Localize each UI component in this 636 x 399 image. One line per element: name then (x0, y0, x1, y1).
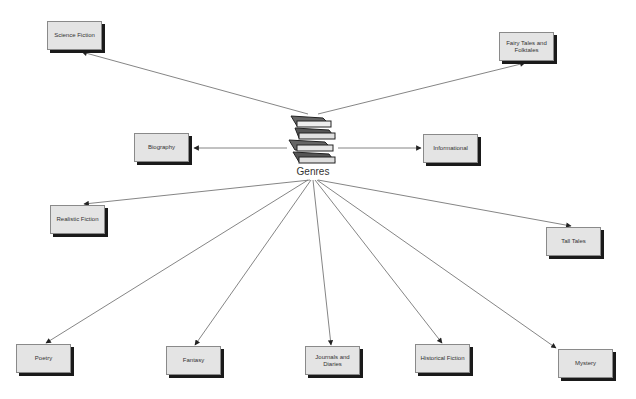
edge-fantasy (195, 180, 311, 345)
edge-realistic-fiction (84, 180, 310, 204)
edge-fairy-tales (318, 63, 525, 114)
node-label: Biography (148, 144, 175, 151)
node-journals-diaries[interactable]: Journals and Diaries (305, 346, 360, 375)
node-label: Informational (433, 145, 468, 152)
node-fairy-tales[interactable]: Fairy Tales and Folktales (499, 32, 554, 61)
node-biography[interactable]: Biography (134, 133, 189, 162)
node-label: Fantasy (183, 357, 204, 364)
node-informational[interactable]: Informational (423, 134, 478, 163)
node-label: Tall Tales (561, 238, 586, 245)
node-label: Realistic Fiction (56, 216, 98, 223)
book-stack-icon (285, 112, 341, 170)
node-tall-tales[interactable]: Tall Tales (546, 227, 601, 256)
node-label: Historical Fiction (420, 355, 464, 362)
node-poetry[interactable]: Poetry (16, 344, 71, 373)
node-fantasy[interactable]: Fantasy (166, 346, 221, 375)
node-label: Journals and Diaries (308, 354, 357, 368)
center-label: Genres (292, 166, 334, 177)
node-science-fiction[interactable]: Science Fiction (47, 21, 102, 50)
node-label: Science Fiction (54, 32, 95, 39)
node-label: Poetry (35, 355, 52, 362)
edge-mystery (317, 180, 556, 348)
node-mystery[interactable]: Mystery (558, 349, 613, 378)
node-realistic-fiction[interactable]: Realistic Fiction (50, 205, 105, 234)
edge-tall-tales (318, 180, 571, 226)
node-label: Mystery (575, 360, 596, 367)
node-label: Fairy Tales and Folktales (502, 40, 551, 54)
edge-science-fiction (82, 52, 308, 114)
node-historical-fiction[interactable]: Historical Fiction (415, 344, 470, 373)
edge-journals-diaries (313, 180, 331, 345)
edge-historical-fiction (315, 180, 442, 343)
